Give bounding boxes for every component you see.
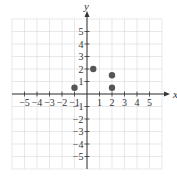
x-tick-label: 5 bbox=[147, 97, 152, 108]
x-tick-label: −3 bbox=[44, 97, 55, 108]
data-point bbox=[109, 85, 115, 91]
y-tick-label: −2 bbox=[73, 114, 84, 125]
data-point bbox=[71, 85, 77, 91]
x-tick-label: 1 bbox=[97, 97, 102, 108]
data-point bbox=[109, 72, 115, 78]
y-axis-label: y bbox=[83, 0, 89, 12]
x-axis-label: x bbox=[172, 88, 177, 100]
y-tick-label: −3 bbox=[73, 126, 84, 137]
coordinate-plane: x y −5−4−3−2−112345−5−4−3−2−112345 bbox=[0, 0, 177, 176]
y-tick-label: 4 bbox=[79, 39, 84, 50]
x-tick-label: −2 bbox=[57, 97, 68, 108]
x-axis-arrow bbox=[164, 92, 170, 97]
x-tick-label: 4 bbox=[135, 97, 140, 108]
y-tick-label: 3 bbox=[79, 51, 84, 62]
y-tick-label: 5 bbox=[79, 26, 84, 37]
y-tick-label: 2 bbox=[79, 64, 84, 75]
y-tick-label: −1 bbox=[73, 101, 84, 112]
x-tick-label: 3 bbox=[122, 97, 127, 108]
data-point bbox=[90, 66, 96, 72]
y-tick-label: 1 bbox=[79, 76, 84, 87]
y-tick-label: −4 bbox=[73, 139, 84, 150]
x-tick-label: −5 bbox=[19, 97, 30, 108]
x-tick-label: −4 bbox=[32, 97, 43, 108]
y-tick-label: −5 bbox=[73, 151, 84, 162]
x-tick-label: 2 bbox=[110, 97, 115, 108]
